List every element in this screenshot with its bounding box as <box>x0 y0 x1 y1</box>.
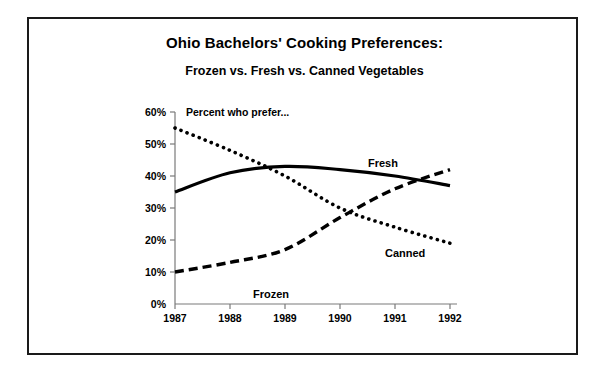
y-tick-label: 60% <box>145 106 167 118</box>
series-label-canned: Canned <box>385 247 425 259</box>
y-tick-label: 20% <box>145 234 167 246</box>
series-label-fresh: Fresh <box>368 157 398 169</box>
series-line-fresh <box>175 166 450 192</box>
series-label-frozen: Frozen <box>253 288 289 300</box>
y-tick-label: 50% <box>145 138 167 150</box>
figure-border: Ohio Bachelors' Cooking Preferences: Fro… <box>27 17 578 355</box>
x-tick-label: 1988 <box>218 312 242 324</box>
y-tick-label: 0% <box>151 298 167 310</box>
series-line-canned <box>175 128 450 243</box>
x-tick-label: 1990 <box>328 312 352 324</box>
percent-annotation: Percent who prefer... <box>186 106 289 118</box>
y-tick-label: 40% <box>145 170 167 182</box>
x-tick-label: 1992 <box>438 312 462 324</box>
x-tick-label: 1991 <box>383 312 407 324</box>
chart-canvas: 0%10%20%30%40%50%60% 1987198819891990199… <box>29 19 580 357</box>
y-axis: 0%10%20%30%40%50%60% <box>145 106 175 310</box>
y-tick-label: 10% <box>145 266 167 278</box>
screenshot-root: Ohio Bachelors' Cooking Preferences: Fro… <box>0 0 608 374</box>
x-tick-label: 1987 <box>163 312 187 324</box>
x-axis: 198719881989199019911992 <box>163 304 462 324</box>
chart-annotation: Percent who prefer... <box>186 106 289 118</box>
y-tick-label: 30% <box>145 202 167 214</box>
line-chart: 0%10%20%30%40%50%60% 1987198819891990199… <box>29 19 580 357</box>
x-tick-label: 1989 <box>273 312 297 324</box>
